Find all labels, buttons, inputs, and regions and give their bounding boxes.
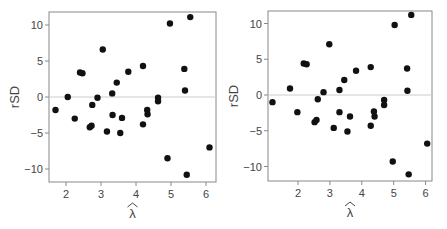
data-point [155,98,161,104]
data-point [144,111,150,117]
data-point [368,64,374,70]
y-tick-label: 5 [256,53,262,65]
left-scatter-panel: 1050−5−1023456rSDλ [0,0,224,229]
y-tick-label: 0 [37,91,43,103]
data-point [381,102,387,108]
right-scatter-plot: 1050−5−1023456rSDλ [223,0,447,229]
data-point [404,65,410,71]
data-point [405,171,411,177]
y-tick-label: −10 [24,163,43,175]
data-point [88,123,94,129]
data-point [303,61,309,67]
data-point [167,20,173,26]
data-point [326,41,332,47]
data-point [336,109,342,115]
y-axis-label: rSD [226,85,241,107]
data-point [109,90,115,96]
data-point [294,109,300,115]
data-point [125,69,131,75]
y-tick-label: 10 [250,18,262,30]
right-scatter-panel: 1050−5−1023456rSDλ [223,0,447,229]
x-tick-label: 6 [203,188,209,200]
data-point [206,144,212,150]
data-point [390,158,396,164]
data-point [79,70,85,76]
data-point [117,130,123,136]
data-point [371,113,377,119]
x-tick-label: 2 [63,188,69,200]
left-scatter-plot: 1050−5−1023456rSDλ [0,0,224,229]
x-tick-label: 6 [423,187,429,199]
data-point [100,46,106,52]
data-point [341,77,347,83]
data-point [52,107,58,113]
x-tick-label: 4 [133,188,139,200]
data-point [353,67,359,73]
y-tick-label: −5 [30,127,43,139]
y-tick-label: 10 [31,19,43,31]
data-point [336,87,342,93]
x-tick-label: 4 [359,187,365,199]
data-point [404,88,410,94]
data-point [114,79,120,85]
data-point [269,99,275,105]
data-point [347,113,353,119]
y-tick-label: 0 [256,89,262,101]
data-point [287,85,293,91]
data-point [424,140,430,146]
x-tick-label: 5 [168,188,174,200]
data-point [94,95,100,101]
data-point [408,12,414,18]
data-point [313,117,319,123]
data-point [368,123,374,129]
data-point [65,94,71,100]
data-point [391,22,397,28]
data-point [164,155,170,161]
plot-frame [268,11,432,181]
data-point [315,96,321,102]
y-tick-label: 5 [37,55,43,67]
x-axis-label-lambda: λ [129,206,136,221]
y-tick-label: −5 [249,125,262,137]
data-point [344,128,350,134]
data-point [320,89,326,95]
data-point [119,115,125,121]
data-point [184,172,190,178]
data-point [140,63,146,69]
data-point [89,102,95,108]
x-tick-label: 3 [327,187,333,199]
x-tick-label: 3 [98,188,104,200]
data-point [109,112,115,118]
x-axis-label-lambda: λ [347,205,354,220]
x-tick-label: 5 [391,187,397,199]
y-tick-label: −10 [243,161,262,173]
data-point [140,121,146,127]
data-point [182,87,188,93]
data-point [72,115,78,121]
x-tick-label: 2 [295,187,301,199]
data-point [104,128,110,134]
data-point [187,14,193,20]
data-point [331,125,337,131]
data-point [181,66,187,72]
y-axis-label: rSD [7,86,22,108]
